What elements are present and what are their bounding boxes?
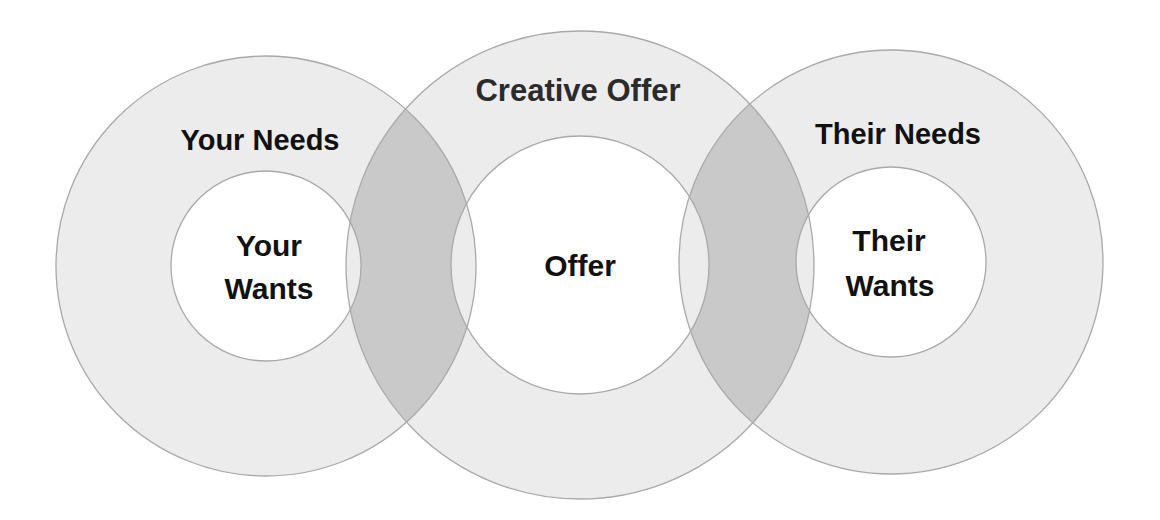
label-offer: Offer xyxy=(544,249,616,282)
label-your-wants-line1: Your xyxy=(236,229,302,262)
inner-circle-theirs xyxy=(796,167,986,357)
label-creative-offer: Creative Offer xyxy=(475,73,680,108)
label-their-wants-line2: Wants xyxy=(846,269,935,302)
label-your-needs: Your Needs xyxy=(180,124,339,156)
inner-circle-yours xyxy=(171,171,361,361)
label-their-wants-line1: Their xyxy=(852,224,926,257)
label-their-needs: Their Needs xyxy=(815,118,981,150)
venn-diagram: Creative Offer Your Needs Their Needs Yo… xyxy=(0,0,1160,520)
label-your-wants-line2: Wants xyxy=(225,272,314,305)
